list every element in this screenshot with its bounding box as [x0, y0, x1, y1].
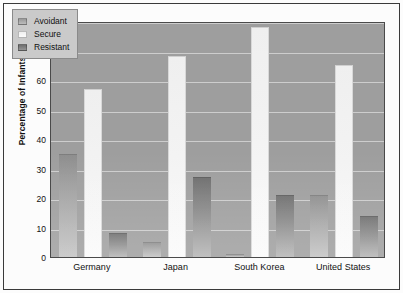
bar-group — [219, 23, 303, 257]
y-tick-label: 30 — [37, 165, 46, 175]
bar-japan-secure — [168, 56, 186, 257]
y-tick-label: 10 — [37, 224, 46, 234]
bar-germany-resistant — [109, 233, 127, 257]
bars-layer — [51, 23, 384, 257]
bar-group — [302, 23, 385, 257]
plot-area — [50, 22, 385, 258]
x-tick-label-south-korea: South Korea — [234, 262, 284, 272]
bar-united-states-avoidant — [310, 195, 328, 257]
bar-south-korea-avoidant — [226, 254, 244, 257]
x-tick-label-united-states: United States — [316, 262, 370, 272]
bar-japan-avoidant — [143, 242, 161, 257]
bar-south-korea-resistant — [276, 195, 294, 257]
legend-item-resistant: Resistant — [18, 41, 69, 53]
y-tick-label: 50 — [37, 106, 46, 116]
bar-united-states-secure — [335, 65, 353, 257]
legend-item-avoidant: Avoidant — [18, 15, 69, 27]
legend-item-label: Resistant — [34, 42, 69, 52]
chart-figure: Percentage of Infants 01020304050607080 … — [0, 0, 403, 293]
legend-item-label: Avoidant — [34, 16, 67, 26]
bar-japan-resistant — [193, 177, 211, 257]
legend-item-label: Secure — [34, 29, 61, 39]
bar-group — [135, 23, 219, 257]
secure-swatch — [18, 31, 27, 38]
legend-item-secure: Secure — [18, 28, 69, 40]
chart-legend: AvoidantSecureResistant — [12, 9, 78, 59]
y-tick-label: 40 — [37, 135, 46, 145]
bar-united-states-resistant — [360, 216, 378, 257]
x-axis-tick-labels: GermanyJapanSouth KoreaUnited States — [50, 262, 385, 278]
y-tick-label: 20 — [37, 194, 46, 204]
x-tick-label-japan: Japan — [163, 262, 188, 272]
x-tick-label-germany: Germany — [73, 262, 110, 272]
bar-germany-avoidant — [59, 154, 77, 257]
bar-south-korea-secure — [251, 27, 269, 257]
y-tick-label: 60 — [37, 76, 46, 86]
resistant-swatch — [18, 44, 27, 51]
avoidant-swatch — [18, 18, 27, 25]
bar-germany-secure — [84, 89, 102, 257]
y-tick-label: 0 — [41, 253, 46, 263]
